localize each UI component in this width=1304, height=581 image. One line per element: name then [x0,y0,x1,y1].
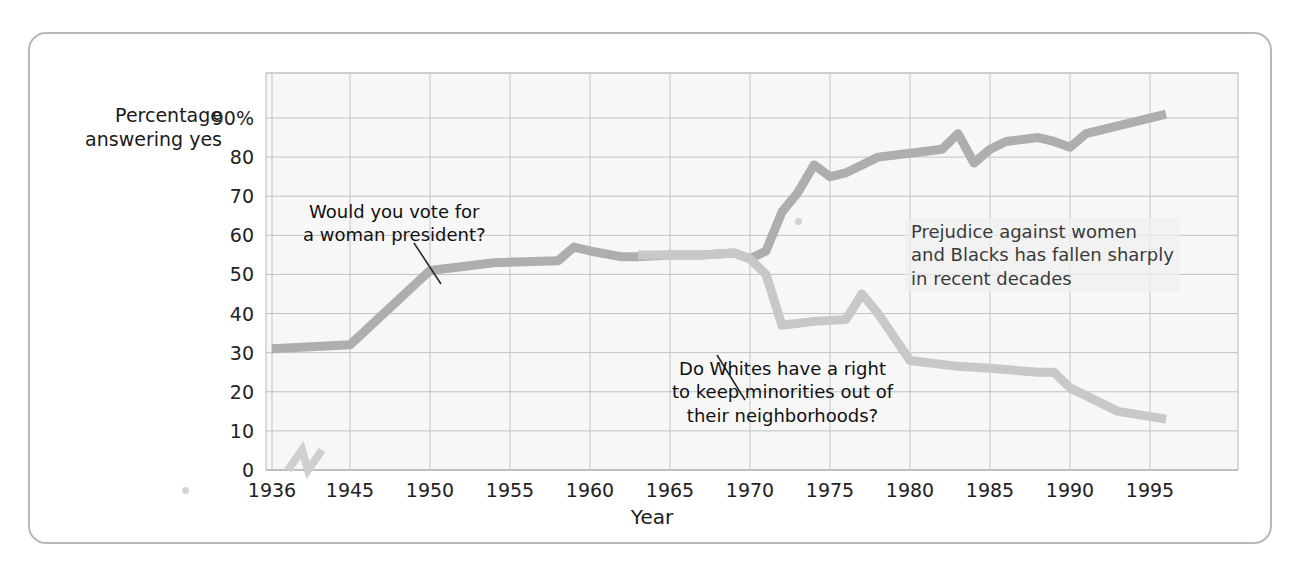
annotation-summary: Prejudice against women and Blacks has f… [905,218,1180,292]
x-axis-title: Year [0,505,1304,529]
annotation-summary-line3: in recent decades [911,267,1174,290]
annotation-whites-question: Do Whites have a right to keep minoritie… [672,357,893,427]
y-axis-tick-labels: 0102030405060708090% [212,107,254,481]
annotation-whites-line2: to keep minorities out of [672,380,893,403]
y-tick-label: 10 [230,420,254,442]
x-tick-label: 1945 [326,479,374,501]
x-tick-label: 1995 [1126,479,1174,501]
x-tick-label: 1950 [406,479,454,501]
annotation-summary-line1: Prejudice against women [911,220,1174,243]
scan-speck-left [182,487,189,494]
x-tick-label: 1955 [486,479,534,501]
x-tick-label: 1980 [886,479,934,501]
x-tick-label: 1960 [566,479,614,501]
y-tick-label: 90% [212,107,254,129]
y-tick-label: 80 [230,146,254,168]
y-tick-label: 20 [230,381,254,403]
y-tick-label: 50 [230,263,254,285]
y-tick-label: 40 [230,303,254,325]
x-tick-label: 1990 [1046,479,1094,501]
x-tick-label: 1970 [726,479,774,501]
x-tick-label: 1985 [966,479,1014,501]
annotation-whites-line1: Do Whites have a right [672,357,893,380]
annotation-whites-line3: their neighborhoods? [672,404,893,427]
y-tick-label: 30 [230,342,254,364]
y-tick-label: 70 [230,185,254,207]
x-tick-label: 1936 [248,479,296,501]
figure-stage: Percentage answering yes 010203040506070… [0,0,1304,581]
annotation-women-line1: Would you vote for [303,200,486,223]
y-tick-label: 60 [230,224,254,246]
y-tick-label: 0 [242,459,254,481]
x-axis-tick-labels: 1936194519501955196019651970197519801985… [248,479,1174,501]
annotation-women-question: Would you vote for a woman president? [303,200,486,247]
x-tick-label: 1965 [646,479,694,501]
x-tick-label: 1975 [806,479,854,501]
annotation-summary-line2: and Blacks has fallen sharply [911,243,1174,266]
scan-speck-mid [795,218,802,225]
annotation-women-line2: a woman president? [303,223,486,246]
